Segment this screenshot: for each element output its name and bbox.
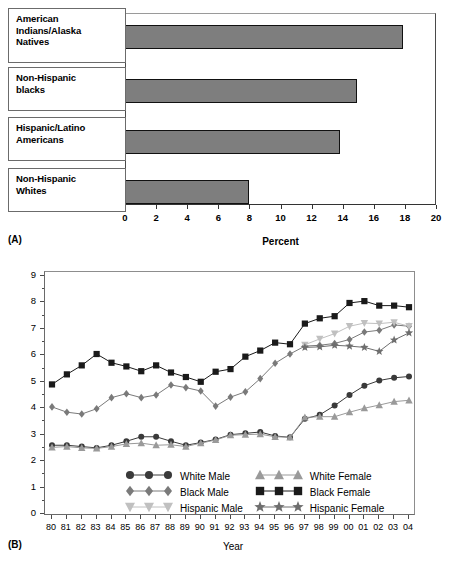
x-tick-label-a: 0 (113, 212, 137, 223)
y-minor-tick-b (42, 500, 44, 501)
category-label-2: Non-Hispanicblacks (8, 67, 126, 111)
y-tick-b (40, 460, 44, 461)
x-tick-b (51, 515, 52, 519)
x-tick-a (187, 205, 188, 209)
data-point (213, 369, 219, 375)
bar-3 (125, 130, 340, 154)
x-tick-a (436, 205, 437, 209)
bar-2 (125, 79, 357, 103)
data-point (94, 405, 100, 413)
y-tick-label-b: 0 (16, 507, 36, 518)
data-point (153, 362, 159, 368)
y-tick-b (40, 328, 44, 329)
legend-label: White Male (178, 468, 253, 484)
panel-a-x-axis-title: Percent (241, 236, 321, 247)
x-tick-a (374, 205, 375, 209)
legend-table: White MaleWhite FemaleBlack MaleBlack Fe… (123, 468, 394, 516)
data-point (406, 304, 412, 310)
panel-b-line-chart: White MaleWhite FemaleBlack MaleBlack Fe… (0, 258, 466, 569)
data-point (330, 341, 338, 349)
legend-circle-icon (123, 468, 175, 482)
x-tick-b (230, 515, 231, 519)
data-point (405, 396, 412, 403)
data-point (168, 381, 174, 389)
series-white-male (49, 373, 412, 450)
data-point (242, 354, 248, 360)
data-point (138, 439, 145, 446)
data-point (361, 328, 367, 336)
y-tick-label-b: 1 (16, 481, 36, 492)
legend-marker-cell (253, 500, 308, 516)
data-point (198, 379, 204, 385)
legend-square-icon (253, 484, 305, 498)
data-point (345, 342, 353, 350)
data-point (94, 351, 100, 357)
y-tick-b (40, 407, 44, 408)
x-tick-label-a: 14 (331, 212, 355, 223)
data-point (332, 313, 338, 319)
panel-b-letter: (B) (8, 539, 22, 550)
data-point (347, 392, 353, 398)
x-tick-b (200, 515, 201, 519)
legend-label: Black Female (308, 484, 394, 500)
y-tick-label-b: 6 (16, 348, 36, 359)
panel-a-bar-chart: AmericanIndians/AlaskaNativesNon-Hispani… (0, 0, 466, 258)
panel-b-plot-frame: White MaleWhite FemaleBlack MaleBlack Fe… (44, 271, 415, 515)
legend-label: Hispanic Female (308, 500, 394, 516)
x-tick-a (156, 205, 157, 209)
y-tick-b (40, 434, 44, 435)
x-tick-b (408, 515, 409, 519)
x-tick-b (215, 515, 216, 519)
legend-triangle-down-icon (123, 500, 175, 514)
data-point (168, 369, 174, 375)
y-tick-label-b: 2 (16, 454, 36, 465)
legend-label: Black Male (178, 484, 253, 500)
data-point (287, 350, 293, 358)
category-label-line: Non-Hispanic (16, 72, 125, 84)
data-point (183, 374, 189, 380)
data-point (138, 368, 144, 374)
x-tick-label-a: 10 (269, 212, 293, 223)
x-tick-b (274, 515, 275, 519)
data-point (302, 321, 308, 327)
category-label-line: Whites (16, 185, 125, 197)
x-tick-b (334, 515, 335, 519)
data-point (331, 331, 338, 338)
x-tick-b (125, 515, 126, 519)
panel-b-x-axis-title: Year (0, 541, 466, 552)
data-point (361, 383, 367, 389)
data-point (183, 384, 189, 392)
category-label-line: blacks (16, 84, 125, 96)
category-label-1: AmericanIndians/AlaskaNatives (8, 8, 126, 63)
data-point (391, 375, 397, 381)
y-tick-b (40, 487, 44, 488)
data-point (242, 388, 248, 396)
y-tick-label-b: 4 (16, 401, 36, 412)
category-label-line: Indians/Alaska (16, 25, 125, 37)
x-tick-label-a: 6 (206, 212, 230, 223)
data-point (64, 371, 70, 377)
data-point (376, 377, 382, 383)
data-point (108, 360, 114, 366)
x-tick-b (378, 515, 379, 519)
x-tick-b (304, 515, 305, 519)
data-point (79, 410, 85, 418)
category-label-line: Americans (16, 134, 125, 146)
data-point (317, 315, 323, 321)
data-point (138, 434, 144, 440)
x-tick-label-b: 04 (399, 522, 417, 532)
data-point (346, 300, 352, 306)
data-point (109, 394, 115, 402)
legend-marker-cell (123, 500, 178, 516)
x-tick-b (363, 515, 364, 519)
data-point (346, 323, 353, 330)
x-tick-b (349, 515, 350, 519)
x-tick-label-a: 20 (424, 212, 448, 223)
data-point (49, 403, 55, 411)
legend-marker-cell (253, 468, 308, 484)
y-minor-tick-b (42, 315, 44, 316)
legend-marker-cell (123, 484, 178, 500)
legend-triangle-up-icon (253, 468, 305, 482)
data-point (49, 381, 55, 387)
x-tick-label-a: 16 (362, 212, 386, 223)
